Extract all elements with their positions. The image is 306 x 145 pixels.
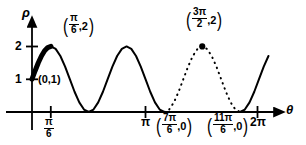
- x-tick-label-pi-over-6-numerator: π: [44, 117, 54, 128]
- peak-marker-dot: [199, 43, 205, 49]
- zero-label-11pi6: ( 11π 6 ,0 ): [206, 114, 249, 136]
- zero-label-7pi6: ( 7π 6 ,0 ): [155, 114, 193, 136]
- x-tick-label-pi: π: [141, 116, 150, 128]
- point-label-peak-dotted-value: ,2: [207, 15, 216, 26]
- x-axis-label: θ: [286, 103, 293, 116]
- y-axis-label: ρ: [22, 6, 30, 19]
- point-label-peak-first-numerator: π: [69, 13, 79, 24]
- zero-label-7pi6-denominator: 6: [162, 124, 177, 136]
- point-label-peak-first: ( π 6 ,2 ): [62, 14, 95, 36]
- zero-label-11pi6-numerator: 11π: [213, 113, 233, 124]
- polar-rho-theta-plot-figure: ρ θ 2 1 π 6 π 2π ( π 6 ,2 ) (0,1) ( 3π 2…: [0, 0, 306, 145]
- zero-label-7pi6-numerator: 7π: [162, 113, 177, 124]
- y-tick-label-2: 2: [15, 40, 22, 52]
- curve-solid-tail: [240, 56, 268, 112]
- point-label-peak-first-value: ,2: [79, 21, 88, 32]
- point-label-origin: (0,1): [38, 74, 61, 85]
- point-label-peak-dotted: ( 3π 2 ,2 ): [185, 8, 223, 30]
- x-tick-label-2pi: 2π: [250, 116, 266, 128]
- point-label-peak-dotted-denominator: 2: [192, 18, 207, 30]
- x-tick-label-pi-over-6: π 6: [44, 118, 54, 140]
- curve-dotted-section: [164, 46, 240, 112]
- zero-label-11pi6-value: ,0: [233, 121, 242, 132]
- y-tick-label-1: 1: [15, 73, 22, 85]
- zero-label-11pi6-denominator: 6: [213, 124, 233, 136]
- point-label-peak-dotted-numerator: 3π: [192, 7, 207, 18]
- point-label-peak-first-denominator: 6: [69, 24, 79, 36]
- x-tick-label-pi-over-6-denominator: 6: [44, 128, 54, 140]
- zero-label-7pi6-value: ,0: [177, 121, 186, 132]
